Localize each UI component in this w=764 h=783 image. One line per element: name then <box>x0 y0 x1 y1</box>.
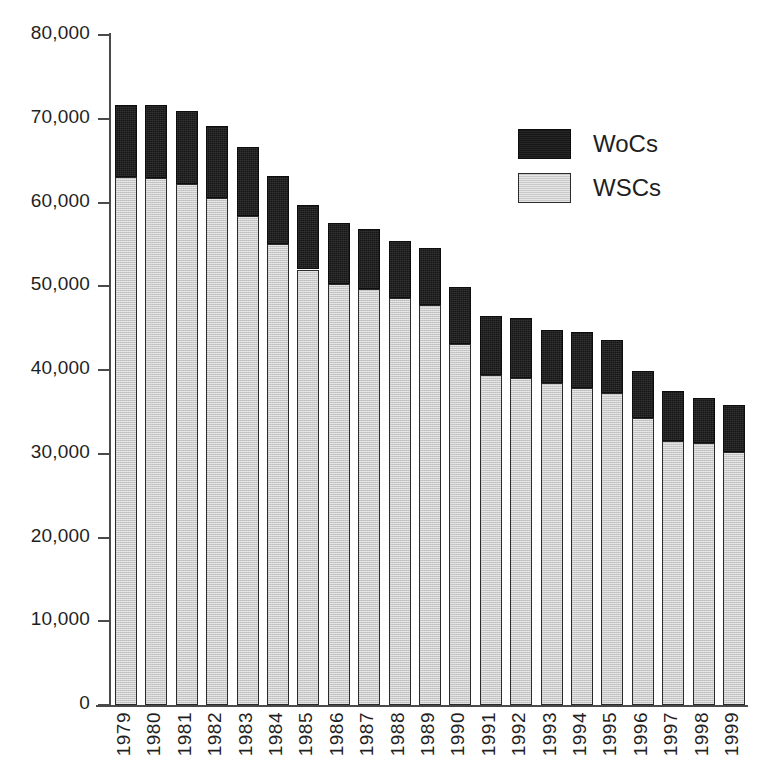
x-tick-label: 1995 <box>599 712 625 756</box>
chart-legend: WoCsWSCs <box>518 122 708 210</box>
x-tick-label: 1992 <box>508 712 534 756</box>
legend-label: WSCs <box>593 174 661 202</box>
y-tick-label: 0 <box>0 692 90 714</box>
y-tick-label: 50,000 <box>0 273 90 295</box>
x-tick-label: 1986 <box>326 712 352 756</box>
bar-segment-wscs <box>632 418 654 705</box>
bar-segment-wscs <box>541 383 563 705</box>
bar-segment-wocs <box>267 176 289 244</box>
bar-segment-wocs <box>419 248 441 305</box>
stacked-bar-chart: 010,00020,00030,00040,00050,00060,00070,… <box>0 0 764 783</box>
bar-segment-wscs <box>510 378 532 705</box>
y-tick-label: 60,000 <box>0 190 90 212</box>
bar-column <box>176 35 198 705</box>
legend-swatch-wocs <box>518 129 571 159</box>
y-tick-label: 80,000 <box>0 22 90 44</box>
bar-segment-wscs <box>419 305 441 705</box>
x-tick-label: 1982 <box>204 712 230 756</box>
x-tick-label: 1996 <box>630 712 656 756</box>
bar-column <box>358 35 380 705</box>
legend-label: WoCs <box>593 130 658 158</box>
bar-segment-wocs <box>328 223 350 284</box>
bar-column <box>449 35 471 705</box>
legend-item: WoCs <box>518 122 708 166</box>
bar-column <box>297 35 319 705</box>
x-tick-label: 1993 <box>539 712 565 756</box>
bar-column <box>389 35 411 705</box>
bar-column <box>723 35 745 705</box>
x-tick-label: 1999 <box>721 712 747 756</box>
legend-swatch-wscs <box>518 173 571 203</box>
bar-segment-wocs <box>389 241 411 298</box>
x-tick-label: 1991 <box>478 712 504 756</box>
x-tick-label: 1994 <box>569 712 595 756</box>
bar-segment-wscs <box>358 289 380 705</box>
bar-segment-wocs <box>297 205 319 269</box>
y-tick-mark <box>98 118 110 120</box>
y-tick-mark <box>98 620 110 622</box>
bar-column <box>206 35 228 705</box>
y-tick-label: 10,000 <box>0 608 90 630</box>
bar-segment-wscs <box>328 284 350 705</box>
bar-segment-wscs <box>297 270 319 706</box>
bar-segment-wocs <box>176 111 198 184</box>
y-tick-mark <box>98 704 110 706</box>
bar-segment-wscs <box>571 388 593 705</box>
bar-segment-wscs <box>662 441 684 705</box>
x-tick-label: 1990 <box>447 712 473 756</box>
bar-segment-wscs <box>723 452 745 705</box>
y-tick-mark <box>98 285 110 287</box>
y-tick-mark <box>98 453 110 455</box>
y-tick-label: 40,000 <box>0 357 90 379</box>
x-tick-label: 1989 <box>417 712 443 756</box>
bar-column <box>419 35 441 705</box>
y-tick-label: 20,000 <box>0 525 90 547</box>
bar-column <box>145 35 167 705</box>
bar-segment-wscs <box>267 244 289 705</box>
bar-segment-wocs <box>693 398 715 443</box>
bar-segment-wscs <box>206 198 228 705</box>
bar-column <box>328 35 350 705</box>
bar-column <box>480 35 502 705</box>
x-tick-label: 1997 <box>660 712 686 756</box>
x-tick-label: 1981 <box>174 712 200 756</box>
bar-segment-wscs <box>480 375 502 705</box>
x-tick-label: 1980 <box>143 712 169 756</box>
bar-segment-wscs <box>176 184 198 705</box>
bar-column <box>267 35 289 705</box>
x-tick-label: 1988 <box>387 712 413 756</box>
legend-item: WSCs <box>518 166 708 210</box>
x-tick-label: 1983 <box>235 712 261 756</box>
bar-segment-wscs <box>449 344 471 705</box>
bar-segment-wscs <box>115 177 137 705</box>
bar-segment-wscs <box>145 178 167 705</box>
bar-segment-wscs <box>389 298 411 705</box>
bar-column <box>237 35 259 705</box>
bar-segment-wocs <box>632 371 654 418</box>
bar-segment-wocs <box>541 330 563 384</box>
x-tick-label: 1984 <box>265 712 291 756</box>
bar-segment-wscs <box>693 443 715 705</box>
bar-segment-wocs <box>662 391 684 441</box>
y-tick-label: 70,000 <box>0 106 90 128</box>
y-tick-mark <box>98 369 110 371</box>
y-tick-mark <box>98 537 110 539</box>
bar-segment-wocs <box>115 105 137 177</box>
y-tick-label: 30,000 <box>0 441 90 463</box>
x-tick-label: 1998 <box>691 712 717 756</box>
y-tick-mark <box>98 202 110 204</box>
bar-segment-wocs <box>510 318 532 378</box>
bar-column <box>115 35 137 705</box>
x-tick-label: 1987 <box>356 712 382 756</box>
bar-segment-wscs <box>237 216 259 705</box>
bar-segment-wocs <box>237 147 259 216</box>
bar-segment-wocs <box>449 287 471 344</box>
bar-segment-wocs <box>723 405 745 452</box>
bar-segment-wocs <box>358 229 380 288</box>
bar-segment-wocs <box>206 126 228 198</box>
bar-segment-wocs <box>145 105 167 178</box>
x-tick-label: 1979 <box>113 712 139 756</box>
x-axis-line <box>96 705 748 707</box>
bar-segment-wscs <box>601 393 623 705</box>
y-tick-mark <box>98 34 110 36</box>
